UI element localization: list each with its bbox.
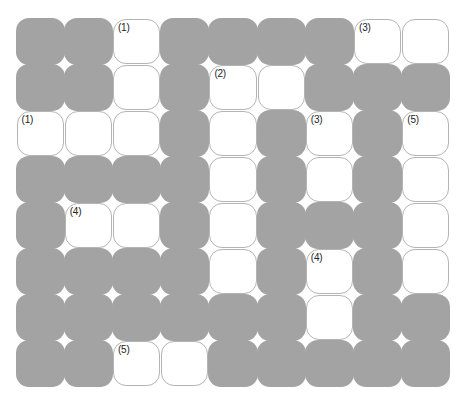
grid-cell-open-r4c2[interactable] <box>113 203 160 248</box>
grid-cell-block-r3c3 <box>160 156 209 203</box>
grid-cell-block-r1c6 <box>305 64 354 111</box>
clue-number: (5) <box>407 114 419 125</box>
grid-cell-open-r6c6[interactable] <box>306 295 353 340</box>
grid-cell-block-r6c4 <box>208 294 257 341</box>
grid-cell-block-r3c1 <box>64 156 113 203</box>
grid-cell-block-r7c1 <box>64 340 113 387</box>
grid-cell-block-r0c3 <box>160 18 209 65</box>
grid-cell-block-r0c6 <box>305 18 354 65</box>
grid-cell-block-r2c5 <box>257 110 306 157</box>
grid-cell-block-r4c0 <box>16 202 65 249</box>
grid-cell-block-r7c0 <box>16 340 65 387</box>
grid-cell-block-r6c8 <box>401 294 450 341</box>
grid-cell-open-r7c3[interactable] <box>161 341 208 386</box>
grid-cell-block-r2c7 <box>353 110 402 157</box>
grid-cell-block-r5c5 <box>257 248 306 295</box>
grid-cell-open-r5c8[interactable] <box>402 249 449 294</box>
grid-cell-block-r5c7 <box>353 248 402 295</box>
grid-cell-open-r0c8[interactable] <box>402 19 449 64</box>
grid-cell-open-r2c2[interactable] <box>113 111 160 156</box>
grid-cell-block-r4c6 <box>305 202 354 249</box>
grid-cell-block-r7c8 <box>401 340 450 387</box>
grid-cell-open-r3c8[interactable] <box>402 157 449 202</box>
grid-cell-block-r0c0 <box>16 18 65 65</box>
grid-cell-open-r2c0[interactable]: (1) <box>17 111 64 156</box>
grid-cell-open-r4c1[interactable]: (4) <box>65 203 112 248</box>
grid-cell-block-r2c3 <box>160 110 209 157</box>
grid-cell-block-r3c7 <box>353 156 402 203</box>
grid-cell-open-r1c2[interactable] <box>113 65 160 110</box>
grid-cell-open-r4c8[interactable] <box>402 203 449 248</box>
grid-cell-open-r1c4[interactable]: (2) <box>209 65 256 110</box>
clue-number: (4) <box>311 252 323 263</box>
grid-cell-block-r5c0 <box>16 248 65 295</box>
grid-cell-block-r3c2 <box>112 156 161 203</box>
grid-cell-block-r6c3 <box>160 294 209 341</box>
grid-cell-block-r0c4 <box>208 18 257 65</box>
grid-cell-open-r7c2[interactable]: (5) <box>113 341 160 386</box>
grid-cell-block-r5c3 <box>160 248 209 295</box>
grid-cell-block-r6c7 <box>353 294 402 341</box>
grid-cell-block-r6c0 <box>16 294 65 341</box>
grid-cell-block-r1c3 <box>160 64 209 111</box>
grid-cell-block-r5c1 <box>64 248 113 295</box>
grid-cell-open-r3c4[interactable] <box>209 157 256 202</box>
grid-cell-block-r6c5 <box>257 294 306 341</box>
grid-cell-block-r4c3 <box>160 202 209 249</box>
grid-cell-open-r0c2[interactable]: (1) <box>113 19 160 64</box>
grid-cell-open-r1c5[interactable] <box>258 65 305 110</box>
clue-number: (3) <box>311 114 323 125</box>
grid-cell-block-r4c5 <box>257 202 306 249</box>
grid-cell-block-r5c2 <box>112 248 161 295</box>
grid-cell-block-r7c4 <box>208 340 257 387</box>
grid-cell-block-r7c7 <box>353 340 402 387</box>
clue-number: (4) <box>70 206 82 217</box>
grid-cell-open-r2c4[interactable] <box>209 111 256 156</box>
clue-number: (2) <box>214 68 226 79</box>
grid-cell-block-r7c5 <box>257 340 306 387</box>
grid-cell-block-r1c0 <box>16 64 65 111</box>
grid-cell-open-r2c6[interactable]: (3) <box>306 111 353 156</box>
grid-cell-block-r4c7 <box>353 202 402 249</box>
clue-number: (1) <box>22 114 34 125</box>
grid-cell-open-r2c8[interactable]: (5) <box>402 111 449 156</box>
grid-cell-block-r3c5 <box>257 156 306 203</box>
clue-number: (1) <box>118 22 130 33</box>
grid-cell-open-r5c6[interactable]: (4) <box>306 249 353 294</box>
grid-cell-open-r2c1[interactable] <box>65 111 112 156</box>
grid-cell-block-r1c8 <box>401 64 450 111</box>
grid-cell-block-r6c1 <box>64 294 113 341</box>
grid-cell-block-r1c1 <box>64 64 113 111</box>
grid-cell-open-r3c6[interactable] <box>306 157 353 202</box>
grid-cell-block-r6c2 <box>112 294 161 341</box>
grid-cell-open-r5c4[interactable] <box>209 249 256 294</box>
grid-cell-open-r4c4[interactable] <box>209 203 256 248</box>
clue-number: (5) <box>118 344 130 355</box>
grid-cell-block-r0c1 <box>64 18 113 65</box>
grid-cell-block-r3c0 <box>16 156 65 203</box>
clue-number: (3) <box>359 22 371 33</box>
grid-cell-open-r0c7[interactable]: (3) <box>354 19 401 64</box>
grid-cell-block-r1c7 <box>353 64 402 111</box>
grid-cell-block-r7c6 <box>305 340 354 387</box>
crossword-grid: (1)(3)(2)(1)(3)(5)(4)(4)(5) <box>16 18 450 386</box>
grid-cell-block-r0c5 <box>257 18 306 65</box>
